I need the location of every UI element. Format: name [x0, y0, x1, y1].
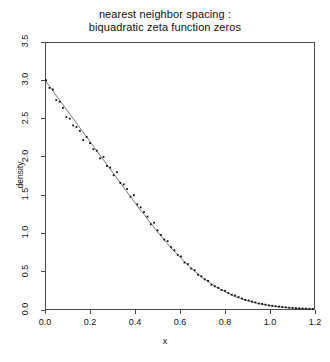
data-point: [59, 101, 61, 103]
data-point: [45, 79, 47, 81]
data-point: [49, 87, 51, 89]
data-point: [113, 174, 115, 176]
data-point: [197, 274, 199, 276]
data-point: [261, 303, 263, 305]
data-point: [231, 294, 233, 296]
data-point: [271, 305, 273, 307]
data-point: [238, 296, 240, 298]
x-tick-label: 1.0: [254, 317, 286, 327]
data-point: [153, 222, 155, 224]
x-tick-mark: [315, 310, 316, 314]
data-point: [221, 289, 223, 291]
chart-root: nearest neighbor spacing : biquadratic z…: [0, 0, 330, 362]
x-tick-label: 0.6: [164, 317, 196, 327]
data-point: [292, 307, 294, 309]
x-tick-mark: [180, 310, 181, 314]
data-point: [234, 295, 236, 297]
data-point: [217, 287, 219, 289]
data-point: [254, 301, 256, 303]
data-point: [285, 306, 287, 308]
y-tick-label: 3.5: [20, 29, 30, 53]
data-point: [275, 305, 277, 307]
data-point: [89, 142, 91, 144]
y-tick-mark: [41, 42, 45, 43]
data-point: [55, 99, 57, 101]
y-tick-label: 1.0: [20, 220, 30, 244]
x-tick-mark: [270, 310, 271, 314]
x-tick-mark: [45, 310, 46, 314]
y-tick-label: 3.0: [20, 67, 30, 91]
data-point: [72, 125, 74, 127]
data-point: [79, 130, 81, 132]
data-point: [106, 165, 108, 167]
data-point: [109, 167, 111, 169]
y-tick-mark: [41, 156, 45, 157]
x-tick-mark: [90, 310, 91, 314]
data-point: [305, 308, 307, 310]
data-point: [69, 118, 71, 120]
data-point: [177, 254, 179, 256]
data-point: [170, 246, 172, 248]
data-point: [82, 139, 84, 141]
y-axis-title: density: [15, 159, 25, 191]
data-point: [136, 203, 138, 205]
data-point: [116, 171, 118, 173]
y-tick-mark: [41, 118, 45, 119]
data-point: [241, 298, 243, 300]
plot-canvas: [45, 42, 315, 310]
data-point: [130, 196, 132, 198]
data-point: [160, 234, 162, 236]
data-point: [92, 148, 94, 150]
data-point: [244, 299, 246, 301]
data-point: [150, 223, 152, 225]
chart-title: nearest neighbor spacing : biquadratic z…: [0, 8, 330, 34]
data-point: [167, 240, 169, 242]
data-point: [99, 157, 101, 159]
data-point: [62, 107, 64, 109]
data-point: [180, 256, 182, 258]
data-point: [157, 229, 159, 231]
data-point: [295, 307, 297, 309]
data-point: [200, 275, 202, 277]
y-tick-mark: [41, 80, 45, 81]
data-point: [65, 116, 67, 118]
data-point: [140, 206, 142, 208]
data-point: [258, 303, 260, 305]
data-point: [187, 263, 189, 265]
data-point: [268, 305, 270, 307]
data-point: [76, 126, 78, 128]
data-point: [227, 292, 229, 294]
data-point-group: [45, 79, 313, 309]
data-point: [163, 239, 165, 241]
data-point: [103, 156, 105, 158]
y-tick-mark: [41, 271, 45, 272]
data-point: [96, 150, 98, 152]
data-point: [248, 300, 250, 302]
data-point: [312, 308, 314, 310]
x-tick-label: 0.0: [29, 317, 61, 327]
x-tick-label: 0.8: [209, 317, 241, 327]
data-point: [251, 301, 253, 303]
y-tick-mark: [41, 195, 45, 196]
data-point: [119, 182, 121, 184]
data-point: [288, 307, 290, 309]
data-point: [86, 136, 88, 138]
x-axis-title: x: [0, 336, 330, 346]
data-point: [194, 269, 196, 271]
data-point: [190, 268, 192, 270]
data-point: [126, 188, 128, 190]
data-point: [204, 278, 206, 280]
data-point: [52, 89, 54, 91]
x-tick-label: 0.4: [119, 317, 151, 327]
data-point: [302, 308, 304, 310]
data-point: [123, 184, 125, 186]
x-tick-mark: [225, 310, 226, 314]
x-tick-mark: [135, 310, 136, 314]
data-point: [214, 285, 216, 287]
y-tick-label: 2.5: [20, 106, 30, 130]
density-curve: [45, 80, 315, 309]
data-point: [207, 280, 209, 282]
y-tick-label: 0.5: [20, 259, 30, 283]
data-point: [278, 306, 280, 308]
data-point: [184, 262, 186, 264]
